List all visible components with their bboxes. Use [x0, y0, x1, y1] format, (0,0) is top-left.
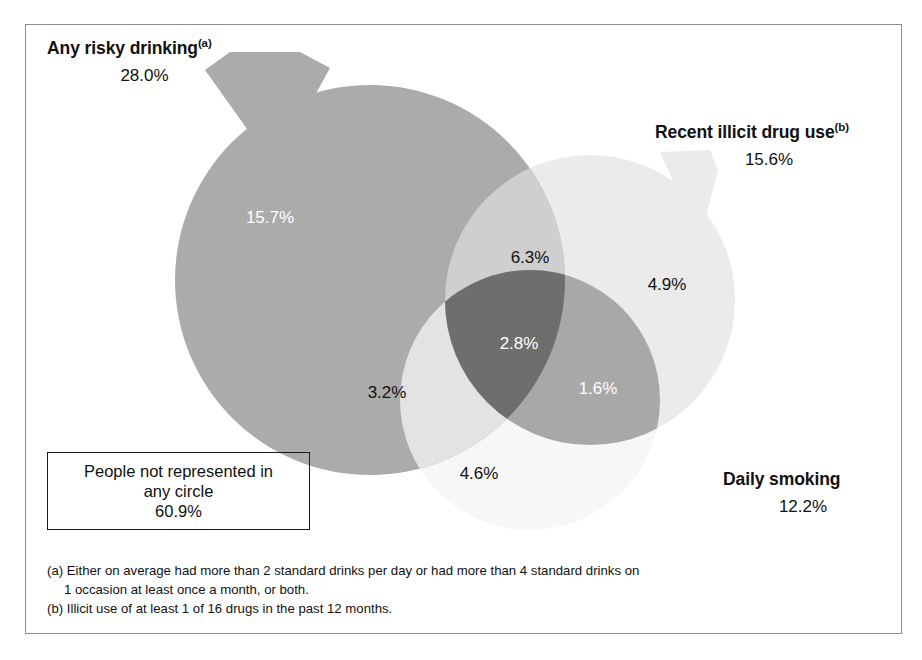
label-daily-smoking: Daily smoking: [723, 469, 840, 490]
label-recent-illicit-drug-use: Recent illicit drug use(b): [655, 122, 849, 143]
footnote-marker-a: (a): [198, 37, 212, 49]
value-any-risky-drinking: 28.0%: [47, 66, 242, 86]
footnote-b: (b) Illicit use of at least 1 of 16 drug…: [47, 600, 857, 618]
region-value-drugs-smoking: 1.6%: [579, 379, 618, 399]
set-label-text: Daily smoking: [723, 469, 840, 489]
region-value-drinking-only: 15.7%: [246, 208, 294, 228]
footnote-a-line-1: (a) Either on average had more than 2 st…: [47, 562, 857, 580]
set-label-text: Any risky drinking: [47, 38, 198, 58]
people-not-represented-box: People not represented in any circle 60.…: [47, 452, 310, 530]
footnotes: (a) Either on average had more than 2 st…: [47, 562, 857, 619]
set-label-text: Recent illicit drug use: [655, 122, 835, 142]
region-value-smoking-only: 4.6%: [460, 464, 499, 484]
region-value-drugs-only: 4.9%: [648, 275, 687, 295]
nobox-line-1: People not represented in: [84, 461, 273, 481]
value-daily-smoking: 12.2%: [723, 497, 883, 517]
value-recent-illicit-drug-use: 15.6%: [655, 150, 883, 170]
footnote-a-line-2: 1 occasion at least once a month, or bot…: [47, 581, 857, 599]
nobox-value: 60.9%: [155, 501, 202, 521]
region-value-drinking-drugs: 6.3%: [511, 248, 550, 268]
venn-figure: Any risky drinking(a) 28.0% Recent illic…: [0, 0, 922, 660]
region-value-drinking-smoking: 3.2%: [368, 383, 407, 403]
footnote-marker-b: (b): [835, 121, 849, 133]
nobox-line-2: any circle: [144, 481, 214, 501]
label-any-risky-drinking: Any risky drinking(a): [47, 38, 212, 59]
region-value-all-three: 2.8%: [500, 334, 539, 354]
venn-canvas: [0, 0, 922, 660]
